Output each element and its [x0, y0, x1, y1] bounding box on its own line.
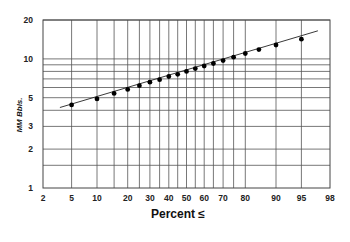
x-gridlines [72, 20, 302, 188]
x-tick-labels: 251020304050607080909598 [41, 193, 335, 203]
y-tick-label-1: 1 [28, 183, 33, 193]
data-point-80 [243, 51, 248, 56]
data-point-25 [137, 83, 142, 88]
data-point-45 [175, 72, 180, 77]
data-point-30 [148, 80, 153, 85]
data-point-75 [231, 55, 236, 60]
x-tick-label-98: 98 [325, 193, 335, 203]
x-tick-label-70: 70 [218, 193, 228, 203]
x-tick-label-20: 20 [123, 193, 133, 203]
data-point-60 [202, 64, 207, 69]
x-tick-label-40: 40 [164, 193, 174, 203]
data-point-65 [211, 61, 216, 66]
data-point-5 [69, 103, 74, 108]
y-tick-label-5: 5 [28, 93, 33, 103]
x-axis-label: Percent ≤ [151, 207, 205, 221]
chart: 251020304050607080909598 12351020 Percen… [0, 0, 350, 242]
y-tick-labels: 12351020 [24, 15, 34, 193]
data-point-15 [112, 91, 117, 96]
y-tick-label-3: 3 [28, 121, 33, 131]
data-point-95 [299, 37, 304, 42]
fitted-line-group [60, 31, 318, 108]
x-tick-label-2: 2 [41, 193, 46, 203]
x-tick-label-30: 30 [145, 193, 155, 203]
data-point-20 [125, 87, 130, 92]
x-tick-label-60: 60 [199, 193, 209, 203]
data-point-10 [95, 97, 100, 102]
data-point-40 [166, 74, 171, 79]
data-point-55 [193, 66, 198, 71]
data-point-70 [221, 58, 226, 63]
fitted-line [60, 31, 318, 108]
x-tick-label-50: 50 [182, 193, 192, 203]
data-point-50 [184, 69, 189, 74]
x-tick-label-10: 10 [92, 193, 102, 203]
data-point-90 [274, 43, 279, 48]
data-point-85 [257, 47, 262, 52]
y-tick-label-20: 20 [24, 15, 34, 25]
y-tick-label-10: 10 [24, 54, 34, 64]
x-tick-label-95: 95 [297, 193, 307, 203]
x-tick-label-80: 80 [241, 193, 251, 203]
x-tick-label-90: 90 [271, 193, 281, 203]
y-tick-label-2: 2 [28, 144, 33, 154]
x-tick-label-5: 5 [69, 193, 74, 203]
y-axis-label: MM Bbls. [15, 97, 24, 132]
data-point-35 [157, 77, 162, 82]
